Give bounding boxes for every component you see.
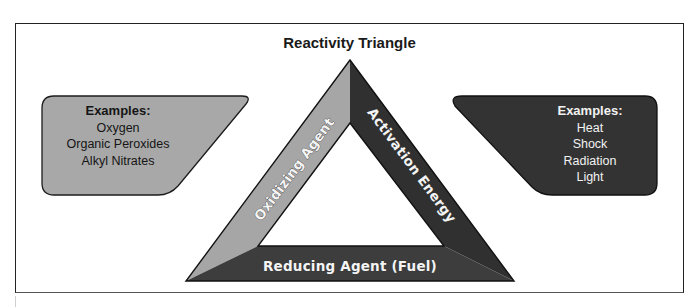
diagram-title: Reactivity Triangle — [0, 34, 699, 51]
left-example-item: Oxygen — [58, 120, 178, 137]
triangle-group — [186, 60, 514, 281]
right-example-item: Shock — [532, 136, 648, 153]
left-example-item: Organic Peroxides — [58, 136, 178, 153]
right-examples-box: Examples: Heat Shock Radiation Light — [532, 103, 648, 186]
left-example-item: Alkyl Nitrates — [58, 153, 178, 170]
left-examples-heading: Examples: — [58, 103, 178, 120]
right-example-item: Heat — [532, 120, 648, 137]
left-examples-box: Examples: Oxygen Organic Peroxides Alkyl… — [58, 103, 178, 169]
right-examples-heading: Examples: — [532, 103, 648, 120]
right-example-item: Radiation — [532, 153, 648, 170]
right-example-item: Light — [532, 169, 648, 186]
reducing-agent-label: Reducing Agent (Fuel) — [263, 258, 437, 274]
